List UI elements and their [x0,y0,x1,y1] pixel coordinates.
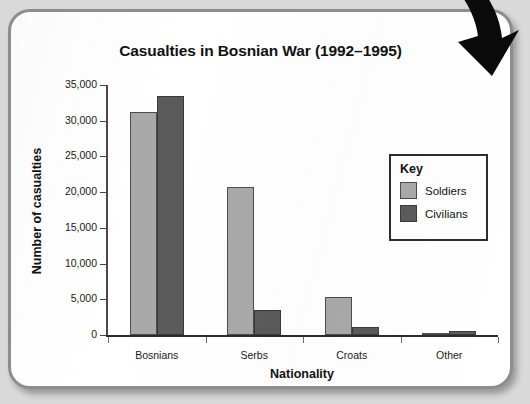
x-tick-mark [498,337,499,343]
y-axis-line [106,85,108,336]
x-axis-title: Nationality [106,367,498,381]
bar-bosnians-soldiers [130,112,157,335]
chart-legend: Key Soldiers Civilians [389,154,488,241]
bar-serbs-civilians [254,310,281,335]
legend-row-soldiers: Soldiers [400,179,486,202]
legend-swatch-soldiers [400,182,417,199]
y-tick-label: 5,000 [39,292,97,304]
x-tick-mark [108,337,109,343]
bar-bosnians-civilians [157,96,184,335]
x-tick-mark [303,337,304,343]
legend-label-civilians: Civilians [425,208,468,220]
x-axis-line [106,335,498,337]
bar-other-civilians [449,331,476,335]
legend-row-civilians: Civilians [400,202,486,225]
y-tick-label: 30,000 [39,114,97,126]
bar-serbs-soldiers [227,187,254,335]
y-tick-label: 15,000 [39,221,97,233]
y-tick-label: 25,000 [39,149,97,161]
x-group-label-serbs: Serbs [204,349,304,361]
chart-page-card: Casualties in Bosnian War (1992–1995) Nu… [8,9,513,389]
x-tick-mark [401,337,402,343]
legend-swatch-civilians [400,205,417,222]
x-tick-mark [206,337,207,343]
legend-title: Key [400,162,486,176]
x-group-label-other: Other [399,349,499,361]
y-tick-label: 20,000 [39,185,97,197]
y-tick-label: 0 [39,328,97,340]
bar-croats-civilians [352,327,379,335]
x-group-label-croats: Croats [302,349,402,361]
y-axis-title: Number of casualties [30,111,44,311]
y-tick-label: 35,000 [39,78,97,90]
bar-other-soldiers [422,333,449,335]
x-group-label-bosnians: Bosnians [107,349,207,361]
bar-croats-soldiers [325,297,352,335]
legend-label-soldiers: Soldiers [425,185,467,197]
y-tick-label: 10,000 [39,257,97,269]
